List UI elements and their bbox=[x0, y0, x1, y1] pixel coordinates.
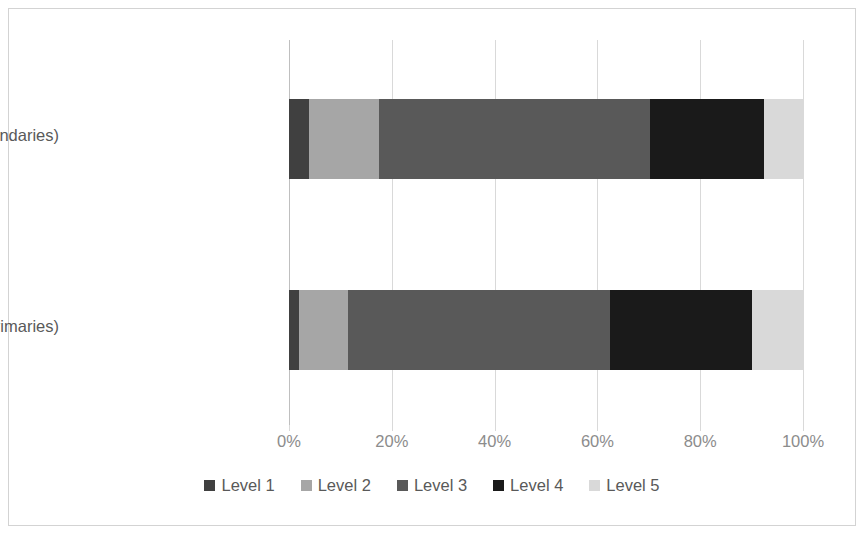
bar-series-primaries bbox=[289, 290, 803, 370]
tick-mark-20pct bbox=[392, 425, 393, 431]
plot-area bbox=[289, 40, 803, 425]
bar-series-secondaries bbox=[289, 99, 803, 179]
bar-segment bbox=[650, 99, 764, 179]
bar-segment bbox=[289, 290, 299, 370]
bar-segment bbox=[610, 290, 752, 370]
tick-mark-0pct bbox=[289, 425, 290, 431]
legend-label: Level 2 bbox=[318, 476, 371, 495]
bar-segment bbox=[752, 290, 803, 370]
legend-label: Level 4 bbox=[510, 476, 563, 495]
legend-label: Level 1 bbox=[221, 476, 274, 495]
legend-item-level-3[interactable]: Level 3 bbox=[397, 476, 467, 495]
legend-item-level-2[interactable]: Level 2 bbox=[301, 476, 371, 495]
bar-segment bbox=[289, 99, 309, 179]
tick-mark-60pct bbox=[597, 425, 598, 431]
axis-tick-label: 20% bbox=[352, 432, 432, 451]
legend-item-level-4[interactable]: Level 4 bbox=[493, 476, 563, 495]
bar-segment bbox=[309, 99, 379, 179]
legend-item-level-5[interactable]: Level 5 bbox=[589, 476, 659, 495]
bar-segment bbox=[299, 290, 348, 370]
category-label-primaries: Personal Data (Primaries) bbox=[0, 317, 59, 336]
tick-mark-100pct bbox=[803, 425, 804, 431]
axis-tick-label: 0% bbox=[249, 432, 329, 451]
legend-item-level-1[interactable]: Level 1 bbox=[204, 476, 274, 495]
legend-swatch-icon bbox=[397, 480, 408, 491]
gridline-100pct bbox=[803, 40, 804, 425]
axis-tick-label: 80% bbox=[660, 432, 740, 451]
legend-label: Level 3 bbox=[414, 476, 467, 495]
axis-tick-label: 60% bbox=[557, 432, 637, 451]
tick-mark-40pct bbox=[495, 425, 496, 431]
legend-swatch-icon bbox=[204, 480, 215, 491]
chart-container: Personal Data (Secondaries) Personal Dat… bbox=[0, 0, 864, 548]
bar-segment bbox=[348, 290, 610, 370]
axis-tick-label: 100% bbox=[763, 432, 843, 451]
legend-swatch-icon bbox=[493, 480, 504, 491]
chart-legend: Level 1Level 2Level 3Level 4Level 5 bbox=[0, 476, 864, 495]
legend-swatch-icon bbox=[301, 480, 312, 491]
axis-tick-label: 40% bbox=[455, 432, 535, 451]
category-label-secondaries: Personal Data (Secondaries) bbox=[0, 126, 59, 145]
bar-segment bbox=[379, 99, 650, 179]
legend-label: Level 5 bbox=[606, 476, 659, 495]
tick-mark-80pct bbox=[700, 425, 701, 431]
bar-segment bbox=[764, 99, 803, 179]
legend-swatch-icon bbox=[589, 480, 600, 491]
